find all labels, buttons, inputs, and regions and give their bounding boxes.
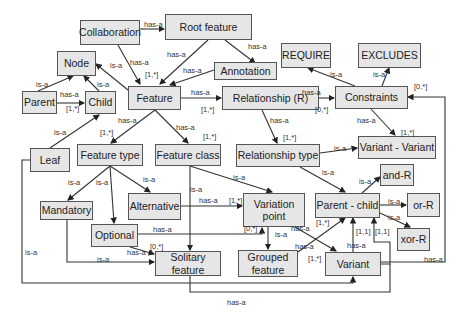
node-root-feature: Root feature [165,14,252,40]
label-root-feature: has-a [167,50,186,59]
label-constraints-vv: has-a [357,116,376,125]
label-variant-pc: has-a [347,241,366,250]
label-constraints-excludes: is-a [373,70,385,79]
node-parent: Parent [22,91,57,114]
label-optional-vp: has-a [153,225,172,234]
label-pc-mult-11a: [1,1] [356,227,371,236]
node-variation-point: Variation point [243,193,305,227]
label-variant-mult-left: [1,*] [308,254,321,263]
node-optional: Optional [91,224,138,247]
label-feature-mult-top: [1,*] [145,70,158,79]
node-solitary-feature: Solitary feature [155,251,221,276]
label-feature-type-mult: [1,*] [100,128,113,137]
label-alternative-vp: has-a [199,196,218,205]
label-pc-and: is-a [359,177,371,186]
node-variant-variant: Variant - Variant [358,136,436,159]
label-optional-solitary: has-a [127,248,146,257]
label-fclass-vp: is-a [233,173,245,182]
node-or-r: or-R [407,193,440,217]
label-reltype-vv: is-a [334,144,346,153]
node-node: Node [57,51,96,76]
label-feature-type: has-a [118,116,137,125]
label-optional-vp-mult: [0,*] [244,224,257,233]
node-feature: Feature [128,86,181,110]
label-child-node: is-a [97,80,109,89]
node-feature-type: Feature type [77,144,143,166]
label-parent-child: has-a [60,90,79,99]
node-and-r: and-R [380,164,414,186]
feature-model-diagram: Collaboration Root feature Node Annotati… [0,0,465,320]
label-leaf-variant: is-a [25,248,37,257]
label-alternative-vp-mult: [1,*] [229,196,242,205]
label-feature-class: has-a [176,123,195,132]
label-pc-mult-left: [1,*] [316,218,329,227]
label-collab-root: has-a [144,20,163,29]
label-vp-variant: has-a [291,224,310,233]
node-leaf: Leaf [30,148,70,172]
label-vp-grouped: is-a [275,230,287,239]
node-feature-class: Feature class [155,144,221,166]
label-relationship-constraints-mult: [0,*] [315,105,328,114]
label-variant-constraints: has-a [424,255,443,264]
label-annotation-feature: has-a [183,66,202,75]
label-reltype-pc: is-a [322,168,334,177]
label-ftype-mandatory: is-a [68,178,80,187]
label-grouped-pc: has-a [295,242,314,251]
node-constraints: Constraints [335,86,408,109]
label-variant-constraints-mult: [0,*] [414,82,427,91]
label-feature-relationship-mult: [1,*] [201,105,214,114]
label-relationship-reltype: has-a [270,116,289,125]
label-solitary-variant-bottom: has-a [227,298,246,307]
node-child: Child [85,91,116,114]
label-pc-mult-11b: [1,1] [375,227,390,236]
label-collab-feature: has-a [130,58,149,67]
label-node-feature: is-a [110,61,122,70]
node-relationship-type: Relationship type [236,144,320,167]
label-relationship-reltype-mult: [1,*] [283,133,296,142]
node-mandatory: Mandatory [40,201,93,220]
node-parent-child: Parent - child [315,193,380,218]
label-root-annotation: has-a [248,42,267,51]
label-parent-node: is-a [36,80,48,89]
node-require: REQUIRE [281,43,331,68]
node-grouped-feature: Grouped feature [238,250,298,277]
label-feature-class-mult: [1,*] [203,132,216,141]
label-mandatory-solitary: is-a [97,255,109,264]
label-feature-relationship: has-a [191,88,210,97]
label-ftype-alternative: is-a [143,175,155,184]
label-constraints-require: is-a [330,70,342,79]
node-alternative: Alternative [128,193,181,220]
label-fclass-solitary: is-a [190,185,202,194]
label-pc-xor: is-a [388,213,400,222]
label-constraints-vv-mult: [1,*] [401,128,414,137]
label-leaf-child: is-a [54,128,66,137]
label-parent-child-mult: [1,*] [66,104,79,113]
node-excludes: EXCLUDES [358,43,421,68]
label-optional-solitary-mult: [0,*] [150,242,163,251]
label-relationship-constraints: has-a [302,88,321,97]
node-annotation: Annotation [214,62,277,80]
node-xor-r: xor-R [397,228,430,251]
label-pc-or: is-a [388,197,400,206]
node-variant: Variant [325,252,381,276]
label-ftype-optional: is-a [96,178,108,187]
node-collaboration: Collaboration [80,20,140,45]
